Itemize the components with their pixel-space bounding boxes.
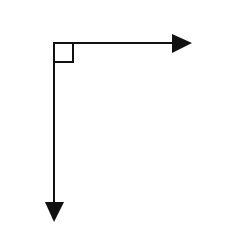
- diagram-canvas: [0, 0, 229, 246]
- down-arrowhead-icon: [45, 202, 64, 222]
- perpendicular-arrows-diagram: [0, 0, 229, 246]
- right-angle-marker: [54, 43, 73, 62]
- right-arrowhead-icon: [172, 34, 192, 53]
